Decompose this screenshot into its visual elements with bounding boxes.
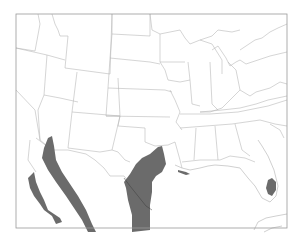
species-range <box>28 136 276 232</box>
range-florida <box>266 178 276 196</box>
map-svg <box>0 0 305 245</box>
range-map <box>0 0 305 245</box>
range-texas-coast <box>178 170 190 175</box>
range-south-texas <box>124 146 166 232</box>
